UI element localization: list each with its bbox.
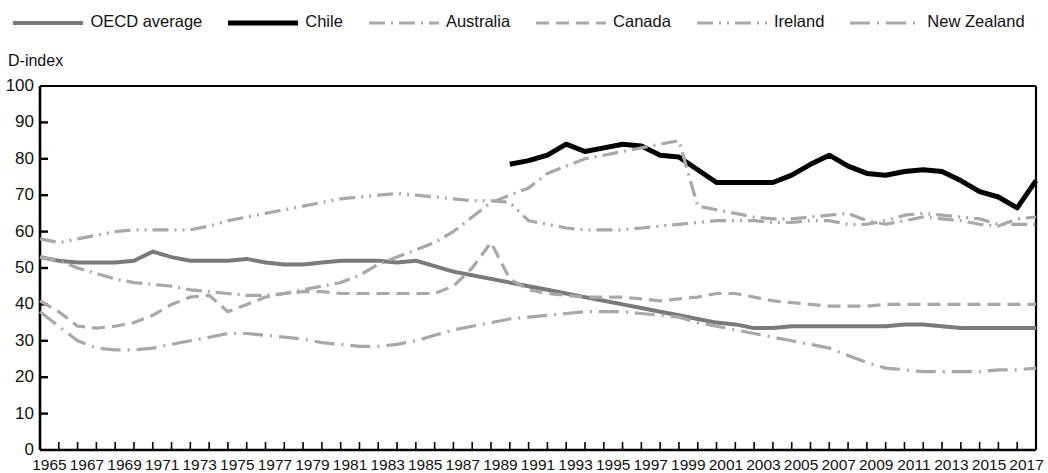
series-line-new-zealand — [40, 312, 1036, 372]
series-line-chile — [510, 144, 1036, 208]
series-layer — [40, 141, 1036, 372]
axis-lines — [40, 86, 1036, 450]
series-line-australia — [40, 141, 1036, 296]
series-line-ireland — [40, 193, 1036, 242]
